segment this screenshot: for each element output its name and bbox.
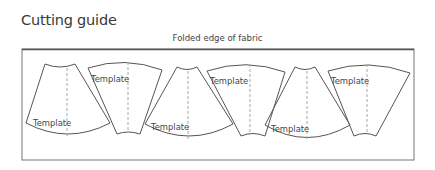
template-label-1: Template [32,118,71,128]
template-label-6: Template [330,76,369,86]
cutting-layout: Template Template Template Template Temp… [0,0,435,170]
template-piece-6 [328,64,410,136]
template-label-3: Template [150,122,189,132]
template-label-2: Template [90,74,129,84]
template-label-5: Template [270,124,309,134]
template-label-4: Template [209,76,248,86]
